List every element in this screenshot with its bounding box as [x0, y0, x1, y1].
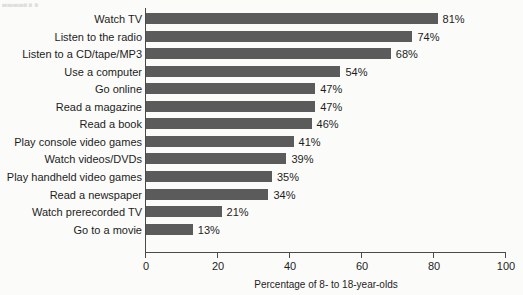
x-axis-tick-label: 40 — [270, 261, 310, 272]
bar-value-label: 39% — [291, 154, 313, 165]
category-label: Read a magazine — [0, 102, 142, 113]
x-axis-tick — [361, 253, 362, 258]
bar-value-label: 21% — [227, 207, 249, 218]
bar — [146, 13, 438, 24]
x-axis-tick — [433, 253, 434, 258]
bar-value-label: 35% — [277, 172, 299, 183]
bar-value-label: 34% — [273, 190, 295, 201]
category-label: Play handheld video games — [0, 172, 142, 183]
bar — [146, 83, 315, 94]
x-axis-tick — [145, 253, 146, 258]
horizontal-bar-chart: Watch TVListen to the radioListen to a C… — [0, 0, 523, 295]
x-axis-tick-label: 20 — [198, 261, 238, 272]
category-label: Go to a movie — [0, 225, 142, 236]
bar-value-label: 41% — [299, 137, 321, 148]
bar-value-label: 74% — [417, 32, 439, 43]
x-axis-title: Percentage of 8- to 18-year-olds — [146, 279, 506, 290]
bar-value-label: 54% — [345, 67, 367, 78]
x-axis-tick-label: 80 — [414, 261, 454, 272]
x-axis-tick — [217, 253, 218, 258]
bar-value-label: 47% — [320, 84, 342, 95]
bar — [146, 66, 340, 77]
bar — [146, 189, 268, 200]
category-label: Read a newspaper — [0, 190, 142, 201]
bar-value-label: 81% — [443, 14, 465, 25]
bar — [146, 48, 391, 59]
category-label: Go online — [0, 84, 142, 95]
bar — [146, 31, 412, 42]
x-axis-tick — [505, 253, 506, 258]
x-axis-tick-label: 60 — [342, 261, 382, 272]
x-axis-line — [145, 252, 506, 253]
bar-value-label: 47% — [320, 102, 342, 113]
bar — [146, 224, 193, 235]
category-label: Watch videos/DVDs — [0, 154, 142, 165]
bar-value-label: 46% — [317, 119, 339, 130]
category-label: Read a book — [0, 119, 142, 130]
bar — [146, 118, 312, 129]
category-label: Play console video games — [0, 137, 142, 148]
x-axis-tick-label: 0 — [126, 261, 166, 272]
category-label: Use a computer — [0, 67, 142, 78]
category-label: Listen to the radio — [0, 32, 142, 43]
category-label: Watch TV — [0, 14, 142, 25]
x-axis-tick-label: 100 — [486, 261, 523, 272]
bar-value-label: 68% — [396, 49, 418, 60]
category-label: Watch prerecorded TV — [0, 207, 142, 218]
bar — [146, 101, 315, 112]
category-label: Listen to a CD/tape/MP3 — [0, 49, 142, 60]
bar — [146, 153, 286, 164]
bar — [146, 171, 272, 182]
bar — [146, 206, 222, 217]
x-axis-tick — [289, 253, 290, 258]
bar — [146, 136, 294, 147]
bar-value-label: 13% — [198, 225, 220, 236]
